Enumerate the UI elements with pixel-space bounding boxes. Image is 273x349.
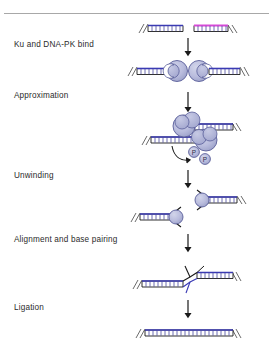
phosphate-label-1: P [192, 149, 196, 156]
repaired-duplex [136, 329, 241, 338]
phosphate-group-2: P [200, 154, 211, 165]
unwinding-right-end [195, 190, 246, 210]
alignment-left-duplex [133, 280, 183, 289]
unwinding-left-end [131, 207, 183, 227]
ku-ring-left [163, 61, 187, 82]
phosphate-label-2: P [203, 156, 207, 163]
dna-end-right-broken [194, 25, 237, 33]
dna-with-ku-right [209, 67, 249, 76]
phosphate-group-1: P [189, 147, 200, 158]
dna-end-left-broken [139, 24, 183, 33]
alignment-right-duplex [197, 272, 241, 281]
phosphate-release-arrow [172, 146, 189, 160]
dna-with-ku-left [128, 67, 168, 76]
nhej-pathway-figure: Ku and DNA-PK bind Approximation Unwindi… [0, 0, 273, 349]
pathway-illustration: P P [0, 0, 273, 349]
base-pairing-junction [183, 266, 204, 293]
